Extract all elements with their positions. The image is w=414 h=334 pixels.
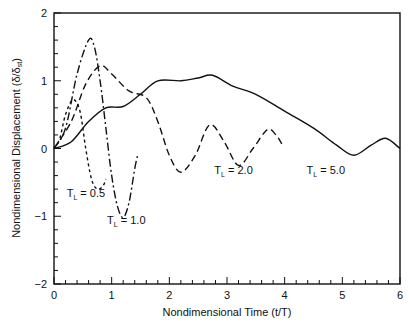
axes: 0123456210−1−2 bbox=[34, 7, 403, 301]
y-tick-label: 2 bbox=[41, 7, 47, 19]
x-tick-label: 4 bbox=[282, 289, 288, 301]
x-axis-title: Nondimensional Time (t/T) bbox=[163, 306, 292, 318]
series-annotation: TL = 2.0 bbox=[214, 164, 252, 178]
y-tick-label: −1 bbox=[34, 210, 47, 222]
plot-frame bbox=[54, 13, 400, 284]
x-tick-label: 0 bbox=[51, 289, 57, 301]
x-tick-label: 1 bbox=[109, 289, 115, 301]
displacement-chart: 0123456210−1−2 TL = 0.5TL = 1.0TL = 2.0T… bbox=[0, 0, 414, 334]
series-annotation: TL = 5.0 bbox=[307, 164, 345, 178]
y-tick-label: 0 bbox=[41, 143, 47, 155]
series-annotation: TL = 1.0 bbox=[107, 214, 145, 228]
series-lines bbox=[54, 38, 400, 217]
x-tick-label: 2 bbox=[166, 289, 172, 301]
series-line-2-0 bbox=[54, 66, 282, 173]
x-tick-label: 6 bbox=[397, 289, 403, 301]
series-line-5-0 bbox=[54, 75, 400, 155]
series-annotations: TL = 0.5TL = 1.0TL = 2.0TL = 5.0 bbox=[67, 164, 345, 228]
series-annotation: TL = 0.5 bbox=[67, 187, 105, 201]
x-tick-label: 5 bbox=[339, 289, 345, 301]
y-tick-label: −2 bbox=[34, 278, 47, 290]
x-tick-label: 3 bbox=[224, 289, 230, 301]
y-axis-title: Nondimensional Displacement (δ/δst) bbox=[10, 58, 23, 238]
y-tick-label: 1 bbox=[41, 75, 47, 87]
